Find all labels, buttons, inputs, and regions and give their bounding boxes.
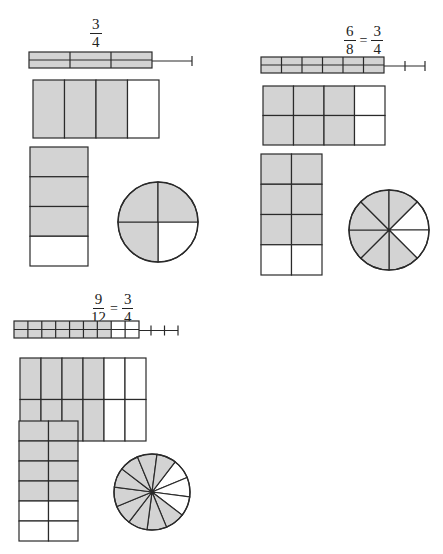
- area-cell: [96, 80, 128, 138]
- area-cell: [263, 116, 294, 146]
- tall-cell: [30, 207, 88, 237]
- tall-cell: [19, 501, 49, 521]
- area-cell: [41, 358, 62, 400]
- tall-cell: [292, 215, 323, 245]
- tall-model-3-4: [30, 147, 88, 266]
- area-cell: [294, 116, 325, 146]
- fraction-models-figure: [0, 0, 443, 554]
- tall-cell: [30, 147, 88, 177]
- tall-cell: [19, 421, 49, 441]
- tall-cell: [261, 215, 292, 245]
- tall-cell: [49, 461, 79, 481]
- area-cell: [104, 358, 125, 400]
- area-cell: [294, 86, 325, 116]
- tall-cell: [30, 236, 88, 266]
- pie-model-9-12: [114, 454, 190, 530]
- strip-model-9-12: [14, 321, 178, 338]
- tall-model-9-12: [19, 421, 78, 541]
- area-cell: [128, 80, 160, 138]
- tall-cell: [19, 481, 49, 501]
- tall-cell: [49, 441, 79, 461]
- area-cell: [355, 116, 386, 146]
- area-cell: [65, 80, 97, 138]
- area-model-3-4: [33, 80, 159, 138]
- strip-model-6-8: [261, 57, 425, 73]
- area-cell: [83, 400, 104, 442]
- pie-model-6-8: [349, 190, 429, 270]
- tall-cell: [292, 154, 323, 184]
- tall-cell: [292, 184, 323, 214]
- area-cell: [324, 86, 355, 116]
- tall-cell: [49, 481, 79, 501]
- area-cell: [125, 400, 146, 442]
- tall-cell: [292, 245, 323, 275]
- tall-cell: [30, 177, 88, 207]
- tall-cell: [19, 461, 49, 481]
- area-model-6-8: [263, 86, 385, 145]
- area-cell: [263, 86, 294, 116]
- tall-cell: [49, 501, 79, 521]
- area-cell: [324, 116, 355, 146]
- tall-cell: [261, 154, 292, 184]
- area-cell: [104, 400, 125, 442]
- area-cell: [83, 358, 104, 400]
- tall-cell: [19, 521, 49, 541]
- area-cell: [33, 80, 65, 138]
- area-cell: [355, 86, 386, 116]
- pie-model-3-4: [118, 182, 198, 262]
- area-cell: [20, 358, 41, 400]
- tall-cell: [261, 245, 292, 275]
- area-cell: [62, 358, 83, 400]
- tall-model-6-8: [261, 154, 322, 275]
- strip-model-3-4: [29, 52, 192, 68]
- tall-cell: [261, 184, 292, 214]
- area-cell: [125, 358, 146, 400]
- tall-cell: [49, 521, 79, 541]
- tall-cell: [49, 421, 79, 441]
- tall-cell: [19, 441, 49, 461]
